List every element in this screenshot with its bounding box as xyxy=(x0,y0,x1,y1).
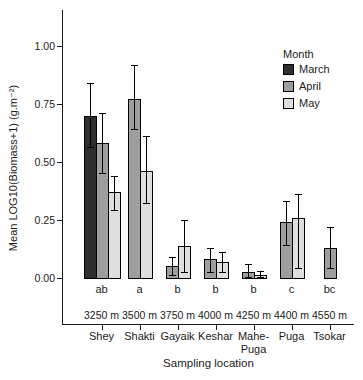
error-bar-line xyxy=(210,249,211,273)
y-axis-tick xyxy=(57,46,62,47)
error-bar xyxy=(87,83,94,148)
legend-entry-label: April xyxy=(299,80,321,92)
error-bar xyxy=(111,176,118,211)
x-axis-line xyxy=(62,324,354,325)
y-axis-tick-label: 0.75 xyxy=(5,99,55,110)
error-bar xyxy=(169,257,176,276)
error-bar-line xyxy=(102,114,103,172)
error-bar xyxy=(207,248,214,274)
significance-letter: bc xyxy=(310,283,350,295)
error-bar-line xyxy=(222,253,223,272)
may-swatch-icon xyxy=(283,98,294,109)
legend-entry-march: March xyxy=(283,63,330,75)
march-swatch-icon xyxy=(283,64,294,75)
error-bar-line xyxy=(298,195,299,267)
error-bar xyxy=(99,113,106,173)
error-bar xyxy=(219,252,226,273)
y-axis-tick-label: 1.00 xyxy=(5,41,55,52)
legend-entry-label: March xyxy=(299,63,330,75)
april-swatch-icon xyxy=(283,81,294,92)
legend: Month MarchAprilMay xyxy=(283,48,330,114)
significance-letter: a xyxy=(120,283,160,295)
altitude-label: 4550 m xyxy=(306,309,354,321)
error-bar xyxy=(295,194,302,268)
legend-entry-label: May xyxy=(299,97,320,109)
x-axis-category-label: Tsokar xyxy=(306,330,354,343)
error-bar-line xyxy=(330,228,331,268)
x-axis-title: Sampling location xyxy=(63,357,354,369)
error-bar-line xyxy=(248,265,249,277)
y-axis-tick xyxy=(57,278,62,279)
y-axis-line xyxy=(62,10,63,325)
error-bar xyxy=(181,220,188,273)
legend-entry-may: May xyxy=(283,97,330,109)
error-bar-line xyxy=(114,177,115,210)
error-bar xyxy=(327,227,334,269)
y-axis-title: Mean LOG10(Biomass+1) (g.m⁻²) xyxy=(7,85,20,251)
significance-letter: b xyxy=(196,283,236,295)
error-bar-line xyxy=(184,221,185,272)
error-bar xyxy=(245,264,252,278)
legend-entries: MarchAprilMay xyxy=(283,63,330,109)
error-bar xyxy=(283,201,290,245)
significance-letter: ab xyxy=(82,283,122,295)
y-axis-tick xyxy=(57,220,62,221)
y-axis-tick xyxy=(57,162,62,163)
y-axis-tick-label: 0.50 xyxy=(5,157,55,168)
error-bar xyxy=(131,65,138,130)
error-bar xyxy=(143,136,150,203)
y-axis-tick-label: 0.25 xyxy=(5,215,55,226)
error-bar-line xyxy=(286,202,287,244)
significance-letter: b xyxy=(234,283,274,295)
bar-chart-figure: Mean LOG10(Biomass+1) (g.m⁻²) 0.000.250.… xyxy=(0,0,363,380)
error-bar-line xyxy=(90,84,91,147)
significance-letter: b xyxy=(158,283,198,295)
error-bar-line xyxy=(260,272,261,277)
significance-letter: c xyxy=(272,283,312,295)
error-bar-line xyxy=(172,258,173,275)
y-axis-tick xyxy=(57,104,62,105)
legend-title: Month xyxy=(283,48,330,60)
error-bar xyxy=(257,271,264,278)
error-bar-line xyxy=(134,66,135,129)
error-bar-line xyxy=(146,137,147,202)
y-axis-tick-label: 0.00 xyxy=(5,273,55,284)
legend-entry-april: April xyxy=(283,80,330,92)
